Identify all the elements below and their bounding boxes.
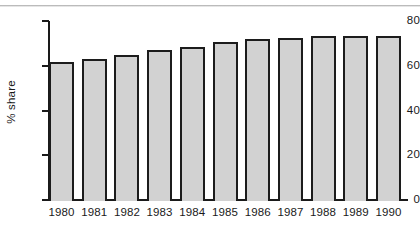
x-axis-tick-label: 1983 <box>143 206 177 218</box>
y-axis-tick <box>42 154 49 156</box>
x-axis-tick-label: 1989 <box>339 206 373 218</box>
bar-chart-figure: 806040200 198019811982198319841985198619… <box>0 0 420 228</box>
bar-1989 <box>343 36 368 201</box>
x-axis-tick-label: 1982 <box>110 206 144 218</box>
bar-1985 <box>213 42 238 201</box>
bar-1986 <box>245 39 270 201</box>
plot-area: 806040200 198019811982198319841985198619… <box>0 0 420 228</box>
x-axis-tick-label: 1988 <box>306 206 340 218</box>
y-axis-tick <box>42 199 49 201</box>
bar-1984 <box>180 47 205 201</box>
x-axis-tick-label: 1990 <box>372 206 406 218</box>
x-axis-tick-label: 1981 <box>77 206 111 218</box>
y-axis-label: % share <box>5 67 17 137</box>
bar-1981 <box>82 59 107 201</box>
x-axis-tick-label: 1987 <box>273 206 307 218</box>
x-axis-tick-label: 1985 <box>208 206 242 218</box>
y-axis-tick-label: 80 <box>382 15 420 27</box>
bar-1987 <box>278 38 303 201</box>
x-axis-tick-label: 1984 <box>175 206 209 218</box>
x-axis-tick-label: 1980 <box>45 206 79 218</box>
y-axis-tick <box>42 65 49 67</box>
y-axis-tick <box>42 110 49 112</box>
bar-1990 <box>376 36 401 201</box>
bar-1980 <box>49 62 74 201</box>
bar-1988 <box>311 36 336 201</box>
y-axis-tick <box>42 20 49 22</box>
bar-1983 <box>147 50 172 201</box>
x-axis-tick-label: 1986 <box>241 206 275 218</box>
bar-1982 <box>114 55 139 201</box>
